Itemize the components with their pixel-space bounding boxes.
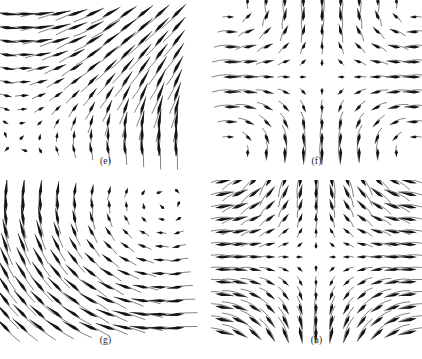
panel-f: (f)	[211, 0, 422, 180]
figure-panel-grid: (e) (f) (g) (h)	[0, 0, 422, 359]
vector-field-plot-e	[0, 0, 211, 180]
vector-field-plot-f	[211, 0, 422, 180]
vector-field-plot-h	[211, 180, 422, 359]
panel-e: (e)	[0, 0, 211, 180]
panel-caption-g: (g)	[0, 335, 211, 345]
panel-caption-e: (e)	[0, 156, 211, 166]
vector-field-plot-g	[0, 180, 211, 359]
panel-caption-h: (h)	[211, 335, 422, 345]
panel-h: (h)	[211, 180, 422, 359]
panel-g: (g)	[0, 180, 211, 359]
panel-caption-f: (f)	[211, 156, 422, 166]
